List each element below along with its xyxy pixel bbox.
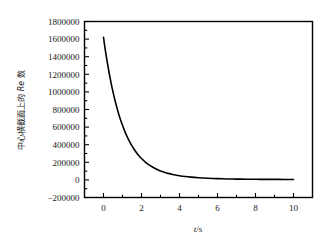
y-tick-label: 800000 [53,105,81,115]
y-tick-label: −200000 [47,193,80,203]
x-tick-label: 6 [215,203,220,213]
y-tick-label: 600000 [53,122,81,132]
y-axis-title-symbol: Re [17,81,26,92]
plot-frame [85,22,313,198]
svg-text:中心横截面上的 Re 数: 中心横截面上的 Re 数 [16,70,26,150]
y-tick-label: 1400000 [48,52,80,62]
line-chart: 0246810 −2000000200000400000600000800000… [0,0,333,245]
y-axis-title: 中心横截面上的 Re 数 [16,70,26,150]
y-tick-label: 400000 [53,140,81,150]
y-tick-label: 200000 [53,158,81,168]
x-tick-label: 10 [289,203,299,213]
svg-text:t/s: t/s [194,224,203,234]
y-tick-label: 1600000 [48,34,80,44]
x-tick-label: 2 [139,203,144,213]
figure-container: 0246810 −2000000200000400000600000800000… [0,0,333,245]
x-axis-title: t/s [194,224,203,234]
y-axis-title-suffix: 数 [16,70,26,78]
x-tick-label: 8 [253,203,258,213]
x-axis-title-unit: s [199,224,203,234]
y-tick-label: 1200000 [48,70,80,80]
y-axis-title-prefix: 中心横截面上的 [16,94,26,150]
x-tick-label: 0 [101,203,106,213]
y-tick-label: 1800000 [48,17,80,27]
y-tick-label: 0 [75,175,80,185]
x-tick-label: 4 [177,203,182,213]
y-tick-label: 1000000 [48,87,80,97]
